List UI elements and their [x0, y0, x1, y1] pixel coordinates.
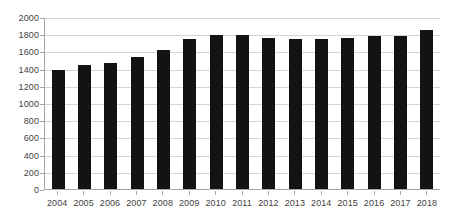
y-axis-tick-label: 200 — [24, 168, 39, 178]
y-axis-tick-label: 600 — [24, 133, 39, 143]
x-axis-tick-label: 2016 — [364, 198, 384, 208]
x-axis-tick-mark — [110, 191, 111, 195]
x-axis-tick: 2006 — [97, 191, 123, 219]
x-axis-tick-mark — [374, 191, 375, 195]
x-axis-tick: 2016 — [361, 191, 387, 219]
bar — [341, 38, 354, 189]
x-axis-tick: 2015 — [334, 191, 360, 219]
bar-chart: 0200400600800100012001400160018002000 20… — [0, 0, 452, 223]
x-axis-tick-mark — [57, 191, 58, 195]
bar-slot — [282, 18, 308, 189]
x-axis: 2004200520062007200820092010201120122013… — [44, 191, 440, 219]
bar-slot — [98, 18, 124, 189]
x-axis-tick-label: 2009 — [179, 198, 199, 208]
y-axis-tick-label: 800 — [24, 116, 39, 126]
x-axis-tick-label: 2018 — [417, 198, 437, 208]
bar — [236, 35, 249, 189]
x-axis-tick-mark — [136, 191, 137, 195]
bar — [289, 39, 302, 189]
x-axis-tick: 2011 — [229, 191, 255, 219]
x-axis-tick-label: 2017 — [390, 198, 410, 208]
x-axis-tick-mark — [162, 191, 163, 195]
x-axis-tick-label: 2011 — [232, 198, 252, 208]
bar — [78, 65, 91, 189]
x-axis-tick: 2005 — [70, 191, 96, 219]
x-axis-tick-label: 2015 — [337, 198, 357, 208]
x-axis-tick-mark — [268, 191, 269, 195]
bar — [183, 39, 196, 189]
x-axis-tick-mark — [189, 191, 190, 195]
bar — [104, 63, 117, 189]
bar-slot — [124, 18, 150, 189]
x-axis-tick-mark — [321, 191, 322, 195]
bar-slot — [229, 18, 255, 189]
x-axis-tick-label: 2014 — [311, 198, 331, 208]
bar — [394, 36, 407, 189]
y-axis-tick-label: 400 — [24, 151, 39, 161]
bar — [420, 30, 433, 189]
x-axis-tick-label: 2010 — [205, 198, 225, 208]
bar-slot — [45, 18, 71, 189]
x-axis-tick-label: 2006 — [100, 198, 120, 208]
bar — [210, 35, 223, 189]
bar-slot — [256, 18, 282, 189]
x-axis-tick-mark — [294, 191, 295, 195]
y-axis-tick-label: 1800 — [19, 30, 39, 40]
bar — [131, 57, 144, 189]
x-axis-tick: 2009 — [176, 191, 202, 219]
y-axis-tick-label: 0 — [34, 185, 39, 195]
x-axis-tick-mark — [400, 191, 401, 195]
bar-slot — [203, 18, 229, 189]
x-axis-tick: 2012 — [255, 191, 281, 219]
x-axis-tick: 2004 — [44, 191, 70, 219]
bar-slot — [361, 18, 387, 189]
bar-slot — [71, 18, 97, 189]
bar-slot — [414, 18, 440, 189]
bar-slot — [308, 18, 334, 189]
bar-slot — [335, 18, 361, 189]
x-axis-tick-label: 2004 — [47, 198, 67, 208]
bar — [368, 36, 381, 189]
x-axis-tick-mark — [242, 191, 243, 195]
bar — [157, 50, 170, 189]
bar-slot — [150, 18, 176, 189]
x-axis-tick-label: 2012 — [258, 198, 278, 208]
x-axis-tick: 2013 — [282, 191, 308, 219]
y-axis-tick-label: 1000 — [19, 99, 39, 109]
y-axis-tick-label: 1400 — [19, 65, 39, 75]
y-axis-tick-label: 1200 — [19, 82, 39, 92]
y-axis: 0200400600800100012001400160018002000 — [0, 18, 44, 190]
bar-series — [45, 18, 440, 189]
x-axis-tick: 2017 — [387, 191, 413, 219]
bar — [262, 38, 275, 189]
bar-slot — [177, 18, 203, 189]
x-axis-tick: 2014 — [308, 191, 334, 219]
x-axis-tick: 2018 — [414, 191, 440, 219]
y-axis-tick-label: 2000 — [19, 13, 39, 23]
x-axis-tick-label: 2013 — [285, 198, 305, 208]
y-axis-tick-label: 1600 — [19, 47, 39, 57]
bar — [315, 39, 328, 189]
bar-slot — [387, 18, 413, 189]
x-axis-tick: 2010 — [202, 191, 228, 219]
x-axis-tick-mark — [215, 191, 216, 195]
x-axis-tick: 2007 — [123, 191, 149, 219]
x-axis-tick-mark — [83, 191, 84, 195]
plot-area — [44, 18, 440, 190]
x-axis-tick-label: 2005 — [73, 198, 93, 208]
x-axis-tick: 2008 — [150, 191, 176, 219]
x-axis-tick-mark — [426, 191, 427, 195]
x-axis-tick-label: 2007 — [126, 198, 146, 208]
x-axis-tick-label: 2008 — [153, 198, 173, 208]
x-axis-tick-mark — [347, 191, 348, 195]
bar — [52, 70, 65, 189]
